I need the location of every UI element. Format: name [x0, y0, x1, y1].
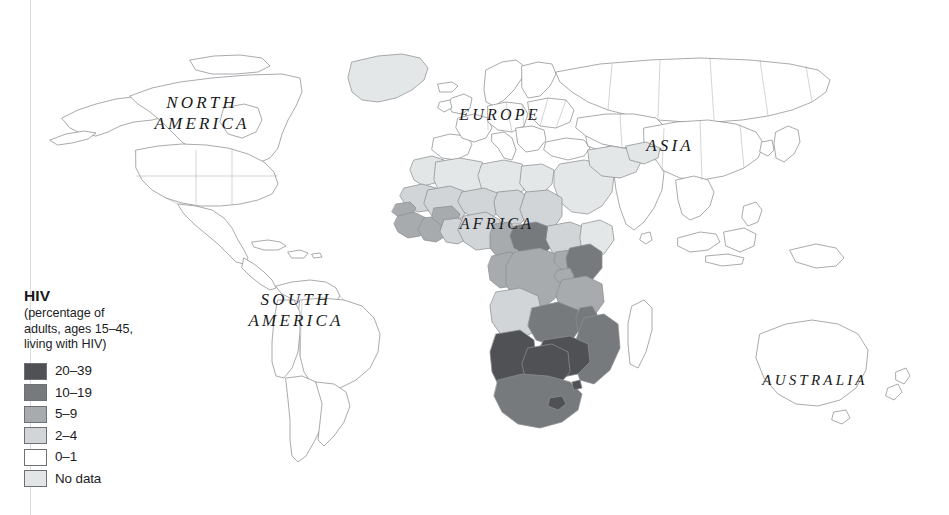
region-madagascar	[628, 300, 652, 368]
region-cuba	[252, 240, 286, 250]
region-canada-arctic-islands	[190, 55, 270, 74]
legend-swatch-10-19	[24, 384, 47, 401]
region-new-zealand-north	[896, 368, 910, 384]
region-new-zealand-south	[886, 384, 902, 400]
region-sri-lanka	[640, 232, 652, 244]
region-tasmania	[832, 410, 850, 424]
legend-swatch-2-4	[24, 427, 47, 444]
region-italy	[492, 132, 516, 160]
map-landmasses	[50, 54, 910, 462]
region-peru-bolivia	[272, 300, 300, 378]
region-finland-baltic	[522, 62, 556, 98]
region-turkey	[544, 138, 590, 160]
map-legend: HIV (percentage of adults, ages 15–45, l…	[24, 287, 174, 489]
region-balkans	[516, 126, 546, 152]
region-british-isles	[448, 94, 472, 114]
region-russia	[556, 58, 830, 122]
region-central-america	[242, 258, 276, 290]
region-japan	[774, 126, 800, 162]
region-puerto-rico	[312, 253, 322, 258]
region-indonesia-java	[706, 254, 744, 266]
region-australia	[756, 320, 868, 406]
legend-label-5-9: 5–9	[55, 407, 77, 420]
region-new-guinea	[790, 244, 844, 268]
region-aleutians	[50, 131, 96, 145]
region-ireland	[438, 100, 452, 112]
legend-row-2-4: 2–4	[24, 425, 174, 447]
legend-swatch-no-data	[24, 470, 47, 487]
region-korea	[760, 140, 774, 156]
legend-row-0-1: 0–1	[24, 446, 174, 468]
legend-label-10-19: 10–19	[55, 386, 92, 399]
legend-subtitle: (percentage of adults, ages 15–45, livin…	[24, 306, 174, 352]
region-hispaniola	[288, 250, 308, 258]
legend-row-20-39: 20–39	[24, 360, 174, 382]
legend-row-no-data: No data	[24, 468, 174, 490]
legend-items: 20–39 10–19 5–9 2–4 0–1 No data	[24, 360, 174, 489]
region-mexico	[178, 204, 248, 264]
legend-label-20-39: 20–39	[55, 364, 92, 377]
region-indonesia-sumatra	[678, 232, 720, 252]
region-swaziland	[572, 380, 582, 390]
region-borneo	[724, 228, 756, 252]
region-philippines	[742, 202, 762, 226]
legend-swatch-5-9	[24, 406, 47, 423]
legend-swatch-20-39	[24, 363, 47, 380]
region-south-africa	[494, 374, 582, 428]
region-egypt-texture	[520, 164, 554, 194]
region-greenland-texture	[348, 54, 428, 102]
legend-label-no-data: No data	[55, 472, 101, 485]
region-indochina	[676, 176, 714, 220]
region-brazil	[298, 298, 380, 390]
page-root: NORTH AMERICA SOUTH AMERICA EUROPE AFRIC…	[0, 0, 949, 515]
legend-swatch-0-1	[24, 449, 47, 466]
legend-label-2-4: 2–4	[55, 429, 77, 442]
legend-row-5-9: 5–9	[24, 403, 174, 425]
region-scandinavia	[484, 60, 524, 106]
legend-title: HIV	[24, 287, 174, 305]
region-argentina-east	[316, 382, 350, 446]
region-iceland	[438, 82, 458, 92]
legend-label-0-1: 0–1	[55, 450, 77, 463]
region-ukraine-belarus	[528, 98, 574, 128]
legend-row-10-19: 10–19	[24, 382, 174, 404]
